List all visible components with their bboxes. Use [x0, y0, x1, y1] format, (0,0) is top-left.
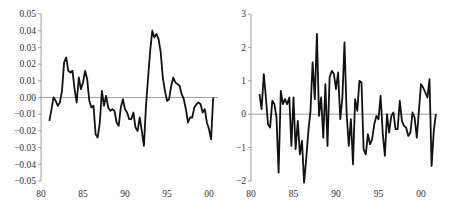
right-y-tick-label: −2: [236, 176, 246, 186]
left-y-tick-label: 0.03: [19, 43, 36, 53]
left-y-tick-label: 0.02: [19, 59, 36, 69]
left-y-tick-label: 0.00: [19, 93, 36, 103]
right-y-tick-label: 1: [241, 76, 246, 86]
right-x-tick-label: 00: [416, 189, 426, 199]
right-series-right-line: [260, 34, 436, 183]
right-x-tick-label: 95: [374, 189, 384, 199]
left-y-tick-label: −0.03: [14, 143, 36, 153]
left-y-tick-label: −0.01: [14, 109, 36, 119]
right-y-tick-label: 3: [241, 9, 246, 19]
left-y-tick-label: −0.05: [14, 176, 36, 186]
chart-canvas: 0.050.040.030.020.010.00−0.01−0.02−0.03−…: [0, 0, 450, 208]
left-y-tick-label: 0.04: [19, 26, 36, 36]
left-x-tick-label: 80: [36, 189, 46, 199]
right-chart-panel: 3210−1−28085909500: [236, 9, 437, 199]
right-x-tick-label: 80: [246, 189, 256, 199]
left-x-tick-label: 90: [120, 189, 130, 199]
left-y-tick-label: −0.02: [14, 126, 36, 136]
right-y-tick-label: −1: [236, 143, 246, 153]
left-y-tick-label: 0.01: [19, 76, 36, 86]
left-y-tick-label: −0.04: [14, 160, 36, 170]
right-x-tick-label: 85: [289, 189, 299, 199]
left-x-tick-label: 95: [162, 189, 172, 199]
right-y-tick-label: 2: [241, 43, 246, 53]
left-chart-panel: 0.050.040.030.020.010.00−0.01−0.02−0.03−…: [14, 9, 218, 199]
right-y-tick-label: 0: [241, 109, 246, 119]
left-series-left-line: [49, 31, 213, 146]
right-x-tick-label: 90: [331, 189, 341, 199]
left-x-tick-label: 85: [78, 189, 88, 199]
left-y-tick-label: 0.05: [19, 9, 36, 19]
left-x-tick-label: 00: [204, 189, 214, 199]
